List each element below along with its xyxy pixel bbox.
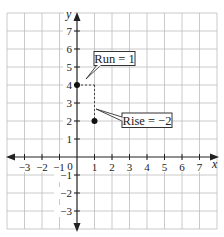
x-tick-2: 2 [109,161,115,173]
y-axis-label: y [65,7,72,21]
y-tick-1: 1 [67,133,73,145]
axes [6,12,219,232]
x-tick-1: 1 [92,161,98,173]
rise-callout-pointer [96,109,122,121]
y-tick-2: 2 [67,115,73,127]
y-axis-down-arrow-icon [74,223,81,232]
rise-callout: Rise = −2 [96,109,172,128]
x-tick-3: 3 [127,161,133,173]
x-tick-neg2: −2 [36,161,48,173]
label-backgrounds [18,8,213,217]
y-tick-4: 4 [67,79,73,91]
coordinate-graph: y x 7 6 5 4 3 2 1 −1 −2 −3 −3 −2 −1 1 2 … [0,0,224,237]
y-tick-5: 5 [67,61,73,73]
y-tick-neg2: −2 [60,187,72,199]
x-tick-4: 4 [144,161,150,173]
x-tick-neg3: −3 [19,161,31,173]
x-tick-5: 5 [162,161,168,173]
origin-label: 0 [67,160,73,172]
x-tick-neg1: −1 [53,161,65,173]
point-0-4 [74,82,80,88]
slope-guides [77,85,95,118]
point-1-2 [92,118,98,124]
y-tick-neg3: −3 [60,205,72,217]
run-callout: Run = 1 [86,52,135,80]
x-tick-7: 7 [197,161,203,173]
x-tick-6: 6 [179,161,185,173]
y-tick-7: 7 [67,25,73,37]
grid [7,13,217,229]
y-tick-6: 6 [67,43,73,55]
y-tick-3: 3 [67,97,73,109]
rise-callout-text: Rise = −2 [123,114,172,128]
run-callout-text: Run = 1 [94,52,134,66]
x-axis-label: x [211,157,218,171]
